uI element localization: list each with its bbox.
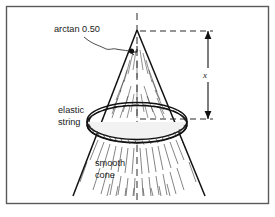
angle-label: arctan 0.50 xyxy=(54,24,100,34)
smooth-cone-label-line1: smooth xyxy=(95,158,125,168)
smooth-cone-label-line2: cone xyxy=(95,170,115,180)
figure-container: arctan 0.50 x elastic string smooth cone xyxy=(0,0,275,217)
cone-elastic-string-diagram: arctan 0.50 x elastic string smooth cone xyxy=(0,0,275,217)
height-label: x xyxy=(202,70,207,80)
elastic-string-label-line2: string xyxy=(58,117,80,127)
elastic-string-label-line1: elastic xyxy=(58,105,84,115)
